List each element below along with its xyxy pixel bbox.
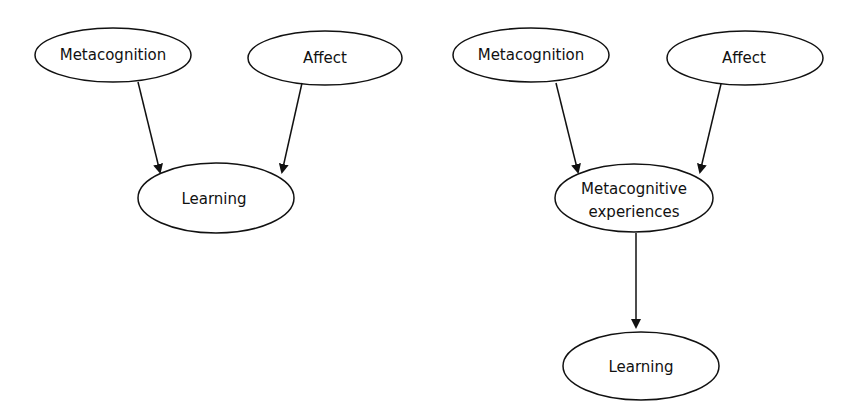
node-metacognition: Metacognition	[35, 28, 191, 82]
right-diagram: Metacognition Affect Metacognitive exper…	[453, 28, 823, 400]
node-label-line2: experiences	[589, 203, 680, 221]
node-label: Learning	[181, 190, 246, 208]
node-label: Learning	[608, 358, 673, 376]
node-learning: Learning	[563, 332, 719, 400]
arrow-metacognition-to-experiences	[556, 83, 578, 172]
node-affect: Affect	[667, 31, 823, 85]
left-diagram: Metacognition Affect Learning	[35, 28, 402, 233]
node-learning: Learning	[138, 163, 294, 233]
node-affect: Affect	[248, 31, 402, 85]
arrow-affect-to-learning	[282, 83, 302, 172]
node-label: Metacognition	[60, 46, 167, 64]
node-label: Affect	[303, 49, 347, 67]
node-metacognition: Metacognition	[453, 28, 609, 82]
diagram-canvas: Metacognition Affect Learning Metacognit…	[0, 0, 855, 414]
node-label-line1: Metacognitive	[581, 180, 687, 198]
arrow-metacognition-to-learning	[138, 82, 160, 172]
arrow-affect-to-experiences	[700, 84, 721, 172]
node-label: Affect	[722, 49, 766, 67]
node-label: Metacognition	[478, 46, 585, 64]
node-metacognitive-experiences: Metacognitive experiences	[555, 164, 713, 232]
